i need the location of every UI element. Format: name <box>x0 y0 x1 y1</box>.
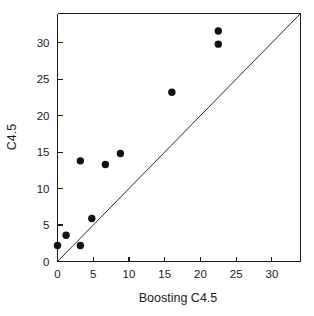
y-tick-label: 20 <box>37 110 50 122</box>
y-tick-label: 15 <box>37 146 50 158</box>
scatter-plot-figure: 051015202530 051015202530 Boosting C4.5 … <box>0 0 314 316</box>
x-axis-tick-labels: 051015202530 <box>54 268 278 280</box>
data-point-marker <box>102 161 109 168</box>
x-axis-title: Boosting C4.5 <box>139 291 218 305</box>
x-tick-label: 0 <box>54 268 60 280</box>
data-point-marker <box>88 215 95 222</box>
y-tick-label: 25 <box>37 73 50 85</box>
y-axis-ticks <box>58 43 63 262</box>
data-point-marker <box>77 157 84 164</box>
x-tick-label: 25 <box>230 268 243 280</box>
x-tick-label: 20 <box>194 268 207 280</box>
x-tick-label: 30 <box>266 268 279 280</box>
x-tick-label: 15 <box>158 268 171 280</box>
data-point-marker <box>77 242 84 249</box>
data-point-marker <box>215 40 222 47</box>
data-point-marker <box>54 242 61 249</box>
data-point-marker <box>62 232 69 239</box>
data-point-marker <box>215 27 222 34</box>
plot-canvas: 051015202530 051015202530 Boosting C4.5 … <box>0 0 314 316</box>
y-axis-tick-labels: 051015202530 <box>37 37 50 268</box>
data-point-marker <box>117 150 124 157</box>
x-tick-label: 10 <box>123 268 136 280</box>
identity-line <box>58 14 301 262</box>
identity-reference-line <box>58 14 301 262</box>
x-axis-ticks <box>58 257 272 262</box>
y-tick-label: 30 <box>37 37 50 49</box>
y-tick-label: 0 <box>43 256 49 268</box>
data-points <box>54 27 222 249</box>
data-point-marker <box>168 89 175 96</box>
y-tick-label: 5 <box>43 219 49 231</box>
y-axis-title: C4.5 <box>5 124 19 150</box>
x-tick-label: 5 <box>90 268 96 280</box>
y-tick-label: 10 <box>37 183 50 195</box>
